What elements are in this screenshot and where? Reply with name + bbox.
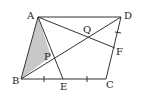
tick-df — [115, 32, 121, 33]
label-c: C — [106, 80, 114, 90]
segment-af — [38, 17, 115, 48]
label-e: E — [60, 82, 67, 92]
label-q: Q — [83, 25, 91, 35]
label-a: A — [27, 11, 34, 21]
label-d: D — [124, 11, 132, 21]
label-f: F — [116, 47, 123, 57]
label-p: P — [44, 52, 51, 62]
label-b: B — [12, 76, 19, 86]
